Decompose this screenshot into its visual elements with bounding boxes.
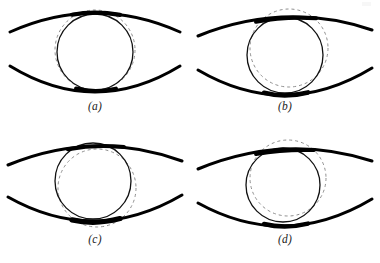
lower-arc [10,66,180,92]
upper-arc [10,13,180,32]
lower-arc [198,68,372,95]
panel-caption: (d) [190,233,380,245]
panel-c: (c) [0,131,190,262]
lower-arc [8,195,182,221]
solid-circle [247,17,323,93]
solid-circle [55,143,131,219]
panel-a: (a) [0,0,190,131]
upper-arc-thick-segment [72,13,120,15]
solid-circle [246,148,320,222]
panel-caption: (c) [0,233,190,245]
panel-b: (b) [190,0,380,131]
panel-d: (d) [190,131,380,262]
scan-artifact [362,2,371,6]
figure-root: (a) (b) (c) [0,0,380,263]
panel-caption: (b) [190,100,380,112]
panel-caption: (a) [0,100,190,112]
lower-arc-thick-segment [264,224,308,227]
upper-arc-thick-segment [256,18,316,22]
lower-arc-thick-segment [76,89,116,92]
solid-circle [57,14,133,90]
dashed-circle [58,149,136,227]
